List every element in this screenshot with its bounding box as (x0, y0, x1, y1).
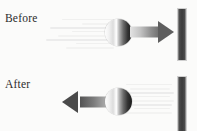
panel-label-before: Before (5, 12, 38, 24)
speed-line (50, 27, 112, 29)
wall-before (177, 8, 187, 61)
speed-line (126, 84, 172, 85)
speed-line (130, 88, 170, 90)
speed-line (124, 92, 174, 94)
ball-before (105, 19, 132, 46)
speed-line (128, 104, 172, 106)
speed-line (62, 19, 114, 20)
arrow-head (158, 21, 174, 43)
wall-after (177, 76, 187, 131)
speed-line (76, 43, 114, 44)
speed-line (134, 108, 170, 109)
arrow-shaft (130, 27, 160, 38)
speed-line (46, 39, 112, 41)
panel-after: After (0, 66, 197, 131)
speed-line (66, 47, 114, 49)
ball-after (105, 88, 132, 115)
panel-label-after: After (5, 78, 30, 90)
speed-line (120, 112, 172, 114)
speed-line (132, 96, 170, 97)
arrow-head (62, 91, 78, 113)
velocity-arrow-right (130, 21, 174, 43)
physics-collision-figure: Before After (0, 0, 197, 131)
panel-before: Before (0, 0, 197, 66)
